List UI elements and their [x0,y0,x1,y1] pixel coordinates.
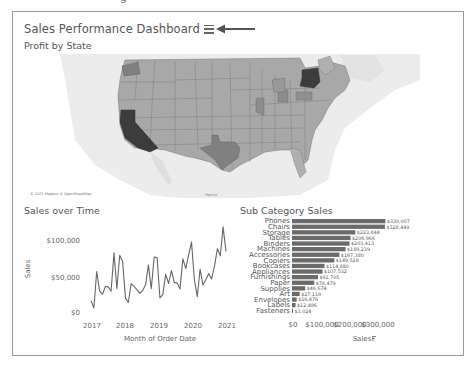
bar[interactable] [292,219,385,223]
bar-value-label: $223,844 [357,230,380,235]
bar[interactable] [292,264,325,268]
bar-value-label: $46,674 [307,286,327,291]
bar-value-label: $3,024 [295,309,312,314]
bar[interactable] [292,269,322,273]
bar[interactable] [292,292,300,296]
x-axis-title: Sales [353,335,372,343]
bar[interactable] [292,247,346,251]
bar[interactable] [292,236,351,240]
bar[interactable] [292,230,355,234]
category-label: Fasteners [256,307,290,315]
bar-value-label: $330,007 [387,219,410,224]
bar[interactable] [292,309,293,313]
sub-category-sales-chart[interactable]: Phones$330,007Chairs$328,449Storage$223,… [0,0,475,368]
bar[interactable] [292,297,297,301]
sort-descending-icon[interactable] [372,336,376,341]
bar-value-label: $27,119 [301,292,321,297]
bar[interactable] [292,241,350,245]
bar[interactable] [292,258,334,262]
bar-value-label: $328,449 [386,225,409,230]
bar[interactable] [292,275,318,279]
bar-value-label: $78,479 [316,281,336,286]
bar[interactable] [292,281,314,285]
bar-value-label: $16,476 [298,297,318,302]
x-tick-0: $0 [289,321,298,329]
x-tick-300000: $300,000 [361,321,394,329]
bar-value-label: $206,966 [352,236,375,241]
bar-value-label: $12,486 [297,303,317,308]
bar-value-label: $203,413 [351,241,374,246]
bar[interactable] [292,286,305,290]
bar[interactable] [292,303,296,307]
bar-value-label: $91,705 [319,275,339,280]
bar[interactable] [292,225,385,229]
bar-value-label: $149,528 [336,258,359,263]
bar-value-label: $114,880 [326,264,349,269]
bar-value-label: $189,239 [347,247,370,252]
bar-value-label: $107,532 [324,269,347,274]
bar[interactable] [292,253,339,257]
bar-value-label: $167,380 [341,253,364,258]
